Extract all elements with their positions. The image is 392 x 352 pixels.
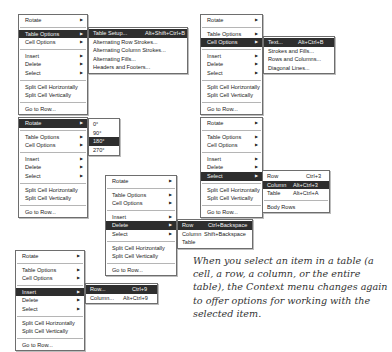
submenu-item-column[interactable]: Column...Alt+Ctrl+9 <box>86 294 157 303</box>
menu-item-split-vertical[interactable]: Split Cell Vertically <box>16 327 84 336</box>
menu-item-table-options[interactable]: Table Options▶ <box>106 191 176 200</box>
submenu-item-row[interactable]: RowCtrl+Backspace <box>178 221 252 230</box>
submenu-arrow-icon: ▶ <box>255 172 258 181</box>
menu-item-delete[interactable]: Delete▶ <box>201 60 262 69</box>
submenu-item-rows-columns[interactable]: Rows and Columns... <box>264 55 334 64</box>
menu-item-table-options[interactable]: Table Options▶ <box>201 133 262 142</box>
separator <box>202 80 261 81</box>
submenu-item-diagonal-lines[interactable]: Diagonal Lines... <box>264 64 334 73</box>
submenu-item-alt-row-strokes[interactable]: Alternating Row Strokes... <box>89 38 187 47</box>
menu-item-select[interactable]: Select▶ <box>19 69 87 78</box>
menu-item-split-horizontal[interactable]: Split Cell Horizontally <box>19 186 87 195</box>
menu-item-table-options[interactable]: Table Options▶ <box>19 133 87 142</box>
menu-item-split-horizontal[interactable]: Split Cell Horizontally <box>201 83 262 92</box>
menu-item-table-options[interactable]: Table Options▶ <box>16 266 84 275</box>
menu-item-split-vertical[interactable]: Split Cell Vertically <box>19 194 87 203</box>
submenu-item-column[interactable]: ColumnShift+Backspace <box>178 230 252 239</box>
submenu-item-strokes-fills[interactable]: Strokes and Fills... <box>264 47 334 56</box>
menu-item-split-vertical[interactable]: Split Cell Vertically <box>201 91 262 100</box>
menu-item-cell-options[interactable]: Cell Options▶ <box>201 38 262 47</box>
submenu-item-headers-footers[interactable]: Headers and Footers... <box>89 63 187 72</box>
submenu-item-row[interactable]: Row...Ctrl+9 <box>86 285 157 294</box>
menu-item-go-to-row[interactable]: Go to Row... <box>19 105 87 114</box>
menu-item-go-to-row[interactable]: Go to Row... <box>16 341 84 350</box>
submenu-arrow-icon: ▶ <box>80 155 83 164</box>
menu-item-select[interactable]: Select▶ <box>106 230 176 239</box>
submenu-item-text[interactable]: Text...Alt+Ctrl+B <box>264 38 334 47</box>
menu-item-split-horizontal[interactable]: Split Cell Horizontally <box>201 186 262 195</box>
menu-item-table-options[interactable]: Table Options▶ <box>19 30 87 39</box>
menu-item-cell-options[interactable]: Cell Options▶ <box>19 141 87 150</box>
submenu-item-column[interactable]: ColumnAlt+Ctrl+3 <box>263 181 329 190</box>
menu-item-go-to-row[interactable]: Go to Row... <box>201 208 262 217</box>
submenu-arrow-icon: ▶ <box>80 133 83 142</box>
submenu-item-270deg[interactable]: 270° <box>89 146 119 155</box>
menu-item-split-horizontal[interactable]: Split Cell Horizontally <box>106 244 176 253</box>
submenu-item-90deg[interactable]: 90° <box>89 129 119 138</box>
menu-item-rotate[interactable]: Rotate▶ <box>201 16 262 25</box>
submenu-item-table-setup[interactable]: Table Setup...Alt+Shift+Ctrl+B <box>89 29 187 38</box>
submenu-arrow-icon: ▶ <box>169 221 172 230</box>
separator <box>20 130 86 131</box>
submenu-arrow-icon: ▶ <box>255 60 258 69</box>
menu-item-insert[interactable]: Insert▶ <box>19 155 87 164</box>
menu-item-delete[interactable]: Delete▶ <box>16 296 84 305</box>
submenu-item-0deg[interactable]: 0° <box>89 120 119 129</box>
menu-item-go-to-row[interactable]: Go to Row... <box>201 105 262 114</box>
menu-item-rotate[interactable]: Rotate▶ <box>19 16 87 25</box>
submenu-item-180deg[interactable]: 180° <box>89 137 119 146</box>
menu-item-delete[interactable]: Delete▶ <box>19 60 87 69</box>
menu-item-go-to-row[interactable]: Go to Row... <box>106 266 176 275</box>
menu-item-cell-options[interactable]: Cell Options▶ <box>19 38 87 47</box>
submenu-item-row[interactable]: RowCtrl+3 <box>263 172 329 181</box>
submenu-arrow-icon: ▶ <box>80 172 83 181</box>
menu-item-select[interactable]: Select▶ <box>19 172 87 181</box>
submenu-item-table[interactable]: Table <box>178 238 252 247</box>
submenu-rotate: 0° 90° 180° 270° <box>88 118 120 156</box>
menu-item-insert[interactable]: Insert▶ <box>106 213 176 222</box>
menu-item-cell-options[interactable]: Cell Options▶ <box>201 141 262 150</box>
menu-item-go-to-row[interactable]: Go to Row... <box>19 208 87 217</box>
menu-item-insert[interactable]: Insert▶ <box>16 288 84 297</box>
menu-item-rotate[interactable]: Rotate▶ <box>201 119 262 128</box>
menu-item-insert[interactable]: Insert▶ <box>19 52 87 61</box>
menu-item-cell-options[interactable]: Cell Options▶ <box>16 274 84 283</box>
menu-item-insert[interactable]: Insert▶ <box>201 52 262 61</box>
menu-item-insert[interactable]: Insert▶ <box>201 155 262 164</box>
shortcut: Alt+Ctrl+9 <box>123 294 148 303</box>
menu-item-split-vertical[interactable]: Split Cell Vertically <box>201 194 262 203</box>
submenu-item-alt-column-strokes[interactable]: Alternating Column Strokes... <box>89 46 187 55</box>
submenu-arrow-icon: ▶ <box>169 177 172 186</box>
menu-item-cell-options[interactable]: Cell Options▶ <box>106 199 176 208</box>
menu-item-rotate[interactable]: Rotate▶ <box>106 177 176 186</box>
submenu-arrow-icon: ▶ <box>169 213 172 222</box>
submenu-item-body-rows[interactable]: Body Rows <box>263 203 329 212</box>
menu-item-split-horizontal[interactable]: Split Cell Horizontally <box>16 319 84 328</box>
menu-item-select[interactable]: Select▶ <box>201 69 262 78</box>
menu-item-delete[interactable]: Delete▶ <box>201 163 262 172</box>
separator <box>107 210 175 211</box>
shortcut: Alt+Shift+Ctrl+B <box>145 29 185 38</box>
submenu-select: RowCtrl+3 ColumnAlt+Ctrl+3 TableAlt+Ctrl… <box>262 170 330 213</box>
shortcut: Alt+Ctrl+A <box>293 189 319 198</box>
submenu-arrow-icon: ▶ <box>255 30 258 39</box>
submenu-insert: Row...Ctrl+9 Column...Alt+Ctrl+9 <box>85 283 158 304</box>
menu-item-table-options[interactable]: Table Options▶ <box>201 30 262 39</box>
separator <box>20 49 86 50</box>
submenu-arrow-icon: ▶ <box>255 141 258 150</box>
separator <box>20 102 86 103</box>
menu-item-delete[interactable]: Delete▶ <box>106 221 176 230</box>
submenu-arrow-icon: ▶ <box>77 266 80 275</box>
menu-item-select[interactable]: Select▶ <box>201 172 262 181</box>
submenu-item-table[interactable]: TableAlt+Ctrl+A <box>263 189 329 198</box>
menu-item-select[interactable]: Select▶ <box>16 305 84 314</box>
menu-item-delete[interactable]: Delete▶ <box>19 163 87 172</box>
menu-item-split-vertical[interactable]: Split Cell Vertically <box>106 252 176 261</box>
menu-item-split-vertical[interactable]: Split Cell Vertically <box>19 91 87 100</box>
submenu-item-alt-fills[interactable]: Alternating Fills... <box>89 55 187 64</box>
menu-item-rotate[interactable]: Rotate▶ <box>16 252 84 261</box>
menu-item-split-horizontal[interactable]: Split Cell Horizontally <box>19 83 87 92</box>
separator <box>17 285 83 286</box>
menu-item-rotate[interactable]: Rotate▶ <box>19 119 87 128</box>
shortcut: Ctrl+Backspace <box>208 221 247 230</box>
